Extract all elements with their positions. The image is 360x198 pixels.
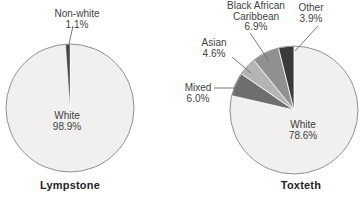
callout-other: Other 3.9% [298, 3, 323, 24]
callout-other-label: Other [298, 3, 323, 14]
label-white-lympstone: White 98.9% [53, 111, 81, 132]
callout-mixed: Mixed 6.0% [185, 83, 212, 104]
chart-title-toxteth: Toxteth [281, 179, 321, 191]
callout-asian-label: Asian [201, 38, 226, 49]
callout-non-white-value: 1.1% [54, 20, 99, 31]
label-white-toxteth-name: White [289, 120, 317, 131]
callout-non-white: Non-white 1.1% [54, 9, 99, 30]
pie-wedges-toxteth [230, 46, 358, 174]
callout-other-value: 3.9% [298, 14, 323, 25]
callout-mixed-label: Mixed [185, 83, 212, 94]
label-white-lympstone-value: 98.9% [53, 122, 81, 133]
label-white-lympstone-name: White [53, 111, 81, 122]
callout-bac-value: 6.9% [224, 22, 288, 33]
callout-non-white-label: Non-white [54, 9, 99, 20]
callout-asian: Asian 4.6% [201, 38, 226, 59]
pie-wedges-lympstone [6, 44, 134, 172]
label-white-toxteth: White 78.6% [289, 120, 317, 141]
callout-asian-value: 4.6% [201, 49, 226, 60]
label-white-toxteth-value: 78.6% [289, 131, 317, 142]
callout-bac-label: Black African Caribbean [224, 1, 288, 22]
callout-mixed-value: 6.0% [185, 94, 212, 105]
chart-title-lympstone: Lympstone [40, 179, 100, 191]
figure-dual-pie-charts: Non-white 1.1% White 98.9% Lympstone Bla… [0, 0, 360, 198]
callout-black-african-caribbean: Black African Caribbean 6.9% [224, 1, 288, 33]
